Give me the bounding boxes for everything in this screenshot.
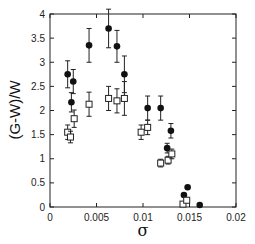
- y-tick-label: 2: [39, 105, 45, 116]
- open-square-point: [86, 101, 92, 107]
- filled-circle-point: [64, 71, 71, 78]
- filled-circle-point: [157, 105, 164, 112]
- filled-circle-point: [196, 202, 203, 209]
- open-square-point: [67, 134, 73, 140]
- x-axis-label: σ: [138, 221, 149, 240]
- y-tick-label: 2.5: [31, 81, 45, 92]
- scatter-chart: 00.511.522.533.5400.0050.010.0150.02 (G-…: [0, 0, 255, 244]
- y-tick-label: 1.5: [31, 129, 45, 140]
- y-tick-label: 0: [39, 202, 45, 213]
- y-tick-label: 4: [39, 9, 45, 20]
- filled-circle-point: [144, 105, 151, 112]
- open-square-point: [121, 95, 127, 101]
- open-square-point: [165, 157, 171, 163]
- y-tick-label: 3: [39, 57, 45, 68]
- open-square-point: [169, 151, 175, 157]
- x-tick-label: 0.005: [84, 212, 109, 223]
- y-tick-label: 0.5: [31, 177, 45, 188]
- y-tick-label: 3.5: [31, 33, 45, 44]
- plot-frame: [50, 14, 236, 207]
- open-square-point: [145, 124, 151, 130]
- filled-circle-point: [184, 184, 191, 191]
- filled-circle-point: [105, 25, 112, 32]
- x-tick-label: 0.015: [177, 212, 202, 223]
- filled-circle-point: [86, 42, 93, 49]
- axes: 00.511.522.533.5400.0050.010.0150.02: [31, 9, 246, 224]
- x-tick-label: 0.02: [226, 212, 246, 223]
- x-tick-label: 0: [47, 212, 53, 223]
- data-points: [64, 9, 203, 208]
- open-square-point: [106, 95, 112, 101]
- open-square-point: [71, 116, 77, 122]
- filled-circle-point: [68, 99, 75, 106]
- filled-circle-point: [114, 43, 121, 50]
- open-square-point: [114, 98, 120, 104]
- filled-circle-point: [168, 127, 175, 134]
- y-axis-label: (G-W)/W: [6, 80, 23, 140]
- open-square-point: [158, 160, 164, 166]
- filled-circle-point: [121, 71, 128, 78]
- y-tick-label: 1: [39, 153, 45, 164]
- open-square-point: [184, 197, 190, 203]
- filled-circle-point: [70, 78, 77, 85]
- open-square-point: [138, 129, 144, 135]
